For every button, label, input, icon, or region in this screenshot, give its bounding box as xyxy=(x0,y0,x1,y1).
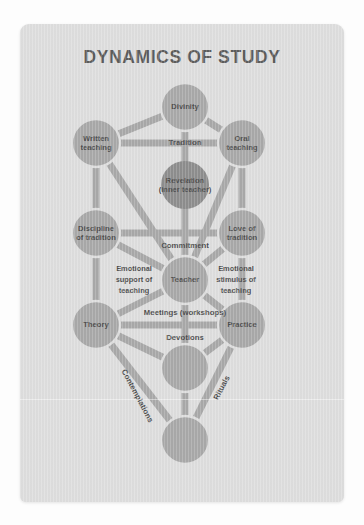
path-label-emotional-support-2: support of xyxy=(116,275,153,284)
node-label-revelation: Revelation xyxy=(166,176,205,185)
node-circle-kingdom xyxy=(161,416,209,464)
path-label-emotional-support: Emotional xyxy=(116,264,152,273)
page-root: DYNAMICS OF STUDY DivinityWrittenteachin… xyxy=(0,0,364,525)
path-label-commitment: Commitment xyxy=(161,241,209,250)
node-label-teacher: Teacher xyxy=(171,275,200,284)
node-oral[interactable]: Oralteaching xyxy=(218,119,266,167)
node-label-love: Love of xyxy=(228,224,255,233)
node-kingdom[interactable] xyxy=(161,416,209,464)
node-label-oral: teaching xyxy=(226,143,258,152)
node-label-oral: Oral xyxy=(234,134,249,143)
node-label-discipline: of tradition xyxy=(76,233,116,242)
node-foundation[interactable] xyxy=(161,344,209,392)
page-title: DYNAMICS OF STUDY xyxy=(20,47,344,68)
path-label-emotional-support-3: teaching xyxy=(119,286,150,295)
node-revelation[interactable]: Revelation(inner teacher) xyxy=(159,161,212,209)
node-label-love: tradition xyxy=(227,233,258,242)
node-label-theory: Theory xyxy=(83,320,109,329)
node-written[interactable]: Writtenteaching xyxy=(72,119,120,167)
path-label-devotions: Devotions xyxy=(166,333,204,342)
node-label-written: teaching xyxy=(80,143,112,152)
path-label-emotional-stimulus-2: stimulus of xyxy=(216,275,256,284)
node-love[interactable]: Love oftradition xyxy=(218,209,266,257)
diagram-card: DYNAMICS OF STUDY DivinityWrittenteachin… xyxy=(20,24,344,502)
node-divinity[interactable]: Divinity xyxy=(161,83,209,131)
path-label-emotional-stimulus: Emotional xyxy=(218,264,254,273)
node-label-practice: Practice xyxy=(227,320,257,329)
node-label-divinity: Divinity xyxy=(171,102,199,111)
node-circle-foundation xyxy=(161,344,209,392)
diagram-svg: DivinityWrittenteachingOralteachingRevel… xyxy=(20,24,344,502)
path-label-meetings: Meetings (workshops) xyxy=(144,308,227,317)
node-discipline[interactable]: Disciplineof tradition xyxy=(72,209,120,257)
path-label-tradition: Tradition xyxy=(169,138,202,147)
tree-of-life-diagram: DivinityWrittenteachingOralteachingRevel… xyxy=(20,24,344,502)
node-label-discipline: Discipline xyxy=(78,224,114,233)
node-teacher[interactable]: Teacher xyxy=(161,256,209,304)
node-theory[interactable]: Theory xyxy=(72,301,120,349)
node-label-written: Written xyxy=(83,134,109,143)
path-label-emotional-stimulus-3: teaching xyxy=(221,286,252,295)
node-label-revelation: (inner teacher) xyxy=(159,185,212,194)
